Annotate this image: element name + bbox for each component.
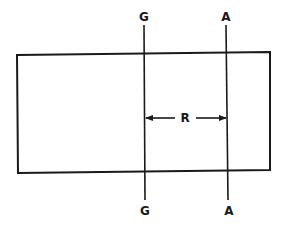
label-a-top: A [221,10,231,24]
label-g-top: G [139,10,149,24]
label-g-bottom: G [140,204,150,218]
dimension-label-r: R [180,111,189,125]
line-a [226,25,228,200]
diagram-canvas: G A G A R [0,0,287,235]
label-a-bottom: A [224,204,234,218]
line-g [144,25,145,200]
